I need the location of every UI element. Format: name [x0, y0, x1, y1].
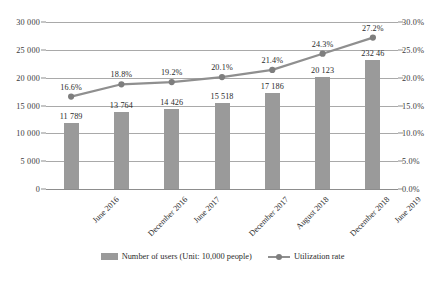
bar-value-label: 13 764: [110, 101, 133, 110]
y-tickmark-left: [41, 77, 46, 78]
line-value-label: 16.6%: [60, 83, 82, 92]
bar-value-label: 11 789: [60, 112, 83, 121]
line-value-label: 24.3%: [312, 40, 334, 49]
x-axis-label: August 2018: [295, 195, 331, 231]
y-tickmark-left: [41, 49, 46, 50]
line-marker: [370, 35, 376, 41]
y-tick-left: 5 000: [0, 157, 40, 166]
plot-area: [46, 22, 398, 189]
y-tickmark-right: [398, 49, 403, 50]
line-marker: [68, 94, 74, 100]
y-tick-left: 25 000: [0, 45, 40, 54]
bar-value-label: 17 186: [261, 82, 284, 91]
y-tickmark-left: [41, 189, 46, 190]
y-tick-right: 5.0%: [402, 157, 444, 166]
y-tick-right: 0.0%: [402, 185, 444, 194]
y-tickmark-left: [41, 22, 46, 23]
bar-swatch-icon: [101, 253, 118, 260]
line-value-label: 20.1%: [211, 63, 233, 72]
line-marker: [269, 67, 275, 73]
bar-value-label: 232 46: [361, 49, 384, 58]
x-axis-label: December 2017: [247, 195, 290, 238]
line-marker-icon: [268, 253, 290, 261]
y-tickmark-left: [41, 161, 46, 162]
x-axis-label: December 2016: [147, 195, 190, 238]
y-tick-left: 10 000: [0, 129, 40, 138]
y-tickmark-right: [398, 22, 403, 23]
y-tickmark-right: [398, 133, 403, 134]
y-tickmark-right: [398, 161, 403, 162]
legend-item-utilization[interactable]: Utilization rate: [268, 252, 344, 261]
y-tick-right: 25.0%: [402, 45, 444, 54]
y-tick-left: 20 000: [0, 73, 40, 82]
line-marker: [169, 79, 175, 85]
y-tick-right: 10.0%: [402, 129, 444, 138]
y-tick-left: 0: [0, 185, 40, 194]
line-marker: [320, 51, 326, 57]
legend-label-users: Number of users (Unit: 10,000 people): [122, 252, 252, 261]
y-tick-right: 20.0%: [402, 73, 444, 82]
combo-chart: 05 00010 00015 00020 00025 00030 000 0.0…: [0, 0, 445, 281]
x-axis-label: June 2016: [91, 195, 121, 225]
y-tickmark-left: [41, 105, 46, 106]
line-value-label: 27.2%: [362, 24, 384, 33]
line-value-label: 19.2%: [161, 68, 183, 77]
y-tick-left: 30 000: [0, 18, 40, 27]
legend-item-users[interactable]: Number of users (Unit: 10,000 people): [101, 252, 252, 261]
line-series: [46, 22, 398, 189]
bar-value-label: 20 123: [311, 66, 334, 75]
y-tickmark-right: [398, 105, 403, 106]
line-value-label: 18.8%: [111, 70, 133, 79]
line-marker: [219, 74, 225, 80]
y-tickmark-right: [398, 189, 403, 190]
y-tickmark-right: [398, 77, 403, 78]
chart-legend: Number of users (Unit: 10,000 people) Ut…: [0, 252, 445, 261]
x-axis-label: June 2017: [191, 195, 221, 225]
x-axis-label: December 2018: [348, 195, 391, 238]
line-marker: [118, 81, 124, 87]
x-axis-line: [46, 189, 398, 190]
y-tick-left: 15 000: [0, 101, 40, 110]
y-tickmark-left: [41, 133, 46, 134]
y-tick-right: 15.0%: [402, 101, 444, 110]
y-tick-right: 30.0%: [402, 18, 444, 27]
bar-value-label: 15 518: [210, 92, 233, 101]
legend-label-utilization: Utilization rate: [294, 252, 344, 261]
x-axis-label: June 2019: [393, 195, 423, 225]
bar-value-label: 14 426: [160, 98, 183, 107]
line-value-label: 21.4%: [261, 56, 283, 65]
